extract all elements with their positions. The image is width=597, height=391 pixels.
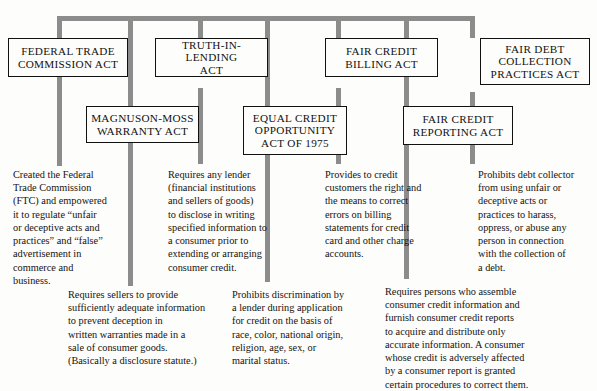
act-box-label: EQUAL CREDIT OPPORTUNITY ACT OF 1975	[253, 112, 337, 150]
description-fair-debt-collection-practices: Prohibits debt collector from using unfa…	[478, 168, 597, 274]
act-box-label: FAIR CREDIT REPORTING ACT	[413, 113, 504, 138]
cropped-title-remnant	[180, 0, 440, 8]
act-box-fair-debt-collection-practices[interactable]: FAIR DEBT COLLECTION PRACTICES ACT	[480, 38, 590, 85]
act-box-truth-in-lending[interactable]: TRUTH-IN-LENDING ACT	[155, 38, 268, 77]
act-box-magnuson-moss-warranty[interactable]: MAGNUSON-MOSS WARRANTY ACT	[86, 106, 199, 143]
description-truth-in-lending: Requires any lender (financial instituti…	[168, 168, 318, 274]
connector-drop-truth-in-lending-upper	[198, 16, 203, 38]
description-federal-trade-commission: Created the Federal Trade Commission (FT…	[13, 168, 153, 287]
connector-drop-fair-credit-billing-upper	[336, 16, 341, 38]
act-box-label: MAGNUSON-MOSS WARRANTY ACT	[91, 112, 194, 137]
description-magnuson-moss-warranty: Requires sellers to provide sufficiently…	[68, 288, 253, 367]
act-box-label: FAIR DEBT COLLECTION PRACTICES ACT	[491, 43, 580, 81]
connector-drop-fair-debt-upper	[470, 16, 475, 38]
act-box-label: FEDERAL TRADE COMMISSION ACT	[18, 45, 118, 70]
act-box-label: FAIR CREDIT BILLING ACT	[345, 45, 418, 70]
description-fair-credit-billing: Provides to credit customers the right a…	[325, 168, 471, 261]
act-box-fair-credit-reporting[interactable]: FAIR CREDIT REPORTING ACT	[403, 106, 513, 145]
connector-drop-magnuson-upper	[128, 16, 133, 106]
act-box-label: TRUTH-IN-LENDING ACT	[160, 39, 263, 77]
description-fair-credit-reporting: Requires persons who assemble consumer c…	[385, 285, 597, 391]
act-box-fair-credit-billing[interactable]: FAIR CREDIT BILLING ACT	[325, 38, 438, 77]
act-box-federal-trade-commission[interactable]: FEDERAL TRADE COMMISSION ACT	[8, 38, 128, 77]
act-box-equal-credit-opportunity[interactable]: EQUAL CREDIT OPPORTUNITY ACT OF 1975	[243, 106, 347, 155]
description-equal-credit-opportunity: Prohibits discrimination by a lender dur…	[232, 288, 392, 367]
